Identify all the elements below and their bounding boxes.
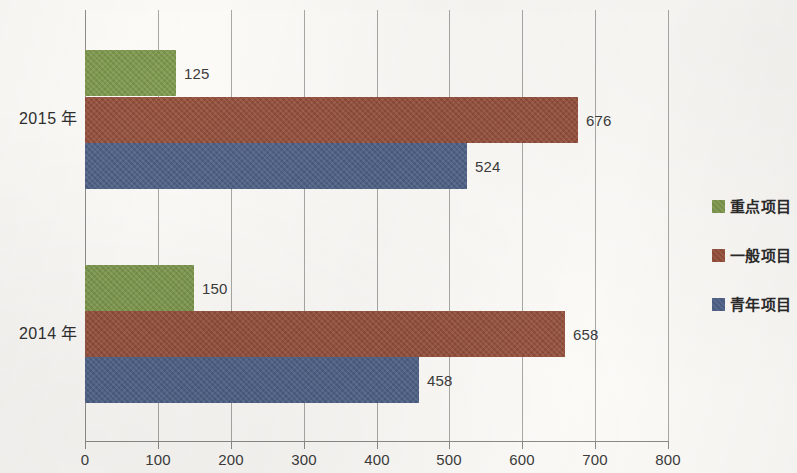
- category-axis: 2015 年 2014 年: [0, 0, 78, 473]
- legend-item-key-project: 重点项目: [712, 196, 797, 216]
- bar-2014-youth-project: [85, 357, 419, 403]
- bar-2015-key-project: [85, 50, 176, 96]
- x-tick-300: [304, 442, 305, 449]
- x-tick-100: [158, 442, 159, 449]
- x-tick-800: [668, 442, 669, 449]
- plot-area: 125 676 524 150 658 458: [85, 10, 668, 442]
- bar-2015-youth-project: [85, 143, 467, 189]
- x-tick-200: [231, 442, 232, 449]
- x-tick-label-800: 800: [638, 451, 698, 468]
- gridline-800: [668, 10, 669, 442]
- x-tick-400: [377, 442, 378, 449]
- bar-2014-key-project: [85, 265, 194, 311]
- x-tick-label-600: 600: [492, 451, 552, 468]
- bar-chart: 125 676 524 150 658 458 0 100 200 300 40…: [0, 0, 797, 473]
- x-tick-label-100: 100: [128, 451, 188, 468]
- category-label-2014: 2014 年: [0, 325, 78, 343]
- bar-value-2015-general-project: 676: [586, 112, 612, 129]
- x-tick-label-400: 400: [347, 451, 407, 468]
- bar-value-2015-youth-project: 524: [475, 158, 501, 175]
- gridline-600: [522, 10, 523, 442]
- legend-label-youth-project: 青年项目: [730, 296, 791, 313]
- x-tick-label-300: 300: [274, 451, 334, 468]
- legend-label-general-project: 一般项目: [730, 247, 791, 264]
- bar-2015-general-project: [85, 97, 578, 143]
- bar-value-2015-key-project: 125: [184, 65, 210, 82]
- legend-swatch-general-project: [712, 249, 725, 262]
- x-tick-0: [85, 442, 86, 449]
- legend-item-general-project: 一般项目: [712, 245, 797, 265]
- bar-value-2014-general-project: 658: [573, 326, 599, 343]
- bar-value-2014-key-project: 150: [202, 280, 228, 297]
- legend-swatch-key-project: [712, 200, 725, 213]
- x-tick-700: [595, 442, 596, 449]
- legend-label-key-project: 重点项目: [730, 198, 791, 215]
- bar-2014-general-project: [85, 311, 565, 357]
- x-tick-600: [522, 442, 523, 449]
- legend-swatch-youth-project: [712, 298, 725, 311]
- x-tick-500: [449, 442, 450, 449]
- legend-item-youth-project: 青年项目: [712, 294, 797, 314]
- bar-value-2014-youth-project: 458: [427, 372, 453, 389]
- x-tick-label-200: 200: [201, 451, 261, 468]
- x-tick-label-500: 500: [419, 451, 479, 468]
- x-tick-label-700: 700: [565, 451, 625, 468]
- gridline-700: [595, 10, 596, 442]
- chart-legend: 重点项目 一般项目 青年项目: [712, 196, 797, 343]
- category-label-2015: 2015 年: [0, 110, 78, 128]
